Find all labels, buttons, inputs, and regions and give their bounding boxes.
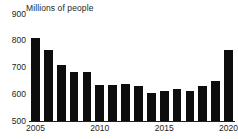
bar: [121, 84, 130, 121]
y-axis-tick-labels: 900800700600500: [8, 0, 26, 139]
bar: [211, 81, 220, 121]
x-axis-tick-label: 2010: [90, 123, 109, 133]
bar: [31, 38, 40, 121]
bar: [57, 65, 66, 121]
bar: [70, 72, 79, 121]
bar: [83, 72, 92, 121]
bar: [108, 85, 117, 121]
x-axis-tick-label: 2005: [26, 123, 45, 133]
bar: [173, 89, 182, 121]
bar-chart-figure: Millions of people 900800700600500 20052…: [0, 0, 238, 139]
x-axis-tick-labels: 2005201020152020: [29, 123, 235, 137]
y-axis-tick-label: 800: [8, 36, 26, 45]
y-axis-tick-label: 700: [8, 63, 26, 72]
y-axis-tick-label: 500: [8, 117, 26, 126]
x-axis-tick-label: 2015: [155, 123, 174, 133]
bar: [134, 86, 143, 121]
bar-series: [29, 14, 235, 121]
bar: [186, 91, 195, 121]
y-axis-tick-label: 900: [8, 10, 26, 19]
bar: [147, 93, 156, 121]
bar: [198, 86, 207, 121]
bar: [160, 91, 169, 121]
x-axis-tick-label: 2020: [219, 123, 238, 133]
bar: [95, 85, 104, 121]
chart-axis-title: Millions of people: [26, 3, 93, 13]
x-axis-baseline: [29, 121, 235, 122]
bar: [224, 50, 233, 121]
y-axis-tick-label: 600: [8, 90, 26, 99]
bar: [44, 50, 53, 121]
